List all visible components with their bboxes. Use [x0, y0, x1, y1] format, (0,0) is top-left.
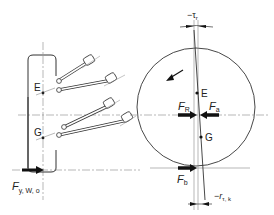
label-dim-top-sub: r: [196, 15, 198, 21]
label-Fb-sub: b: [184, 179, 188, 186]
point-G-wheel: [199, 135, 202, 138]
label-Fywo: Fy, W, o: [12, 180, 40, 195]
label-FR-sub: R: [185, 106, 190, 113]
label-E-wheel: E: [201, 88, 208, 99]
rotation-arrow: [166, 70, 183, 81]
diagram-canvas: E G: [0, 0, 274, 215]
label-E-left: E: [34, 82, 41, 93]
label-FR: FR: [178, 100, 190, 113]
label-dim-bottom-sub: τ, k: [222, 196, 232, 202]
axle-frame-outline: [28, 55, 56, 172]
point-E-wheel: [195, 91, 198, 94]
label-Fb: Fb: [177, 173, 188, 186]
force-arrow-Fywo: [22, 166, 44, 174]
label-G-wheel: G: [205, 132, 213, 143]
label-Fa: Fa: [209, 100, 220, 113]
label-Fywo-sub: y, W, o: [19, 187, 40, 195]
label-dim-bottom: −rτ, k: [214, 191, 232, 202]
label-Fa-sub: a: [216, 106, 220, 113]
label-dim-top: −τr: [187, 10, 198, 21]
label-G-left: G: [34, 127, 42, 138]
dimension-bottom: [188, 202, 212, 206]
rod-upper-1: [57, 54, 100, 83]
dimension-top: [180, 25, 213, 28]
linkage-rods: [57, 54, 136, 137]
